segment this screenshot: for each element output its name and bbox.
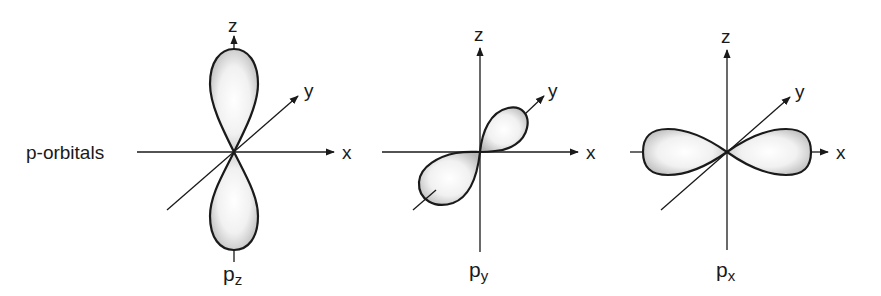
px-orbital-diagram: z y x px <box>630 26 846 284</box>
pz-orbital-diagram: z y x pz <box>137 15 352 288</box>
p-orbitals-label: p-orbitals <box>26 142 104 163</box>
py-x-label: x <box>586 142 596 163</box>
px-z-label: z <box>721 26 731 47</box>
py-upper-lobe <box>480 107 528 152</box>
pz-y-label: y <box>304 80 314 101</box>
py-y-axis-outer <box>525 96 544 114</box>
px-left-lobe <box>643 129 727 175</box>
px-y-label: y <box>795 81 805 102</box>
px-right-lobe <box>727 129 811 175</box>
pz-z-label: z <box>228 15 238 36</box>
pz-orbital-label: pz <box>223 262 242 288</box>
py-z-label: z <box>474 24 484 45</box>
pz-x-label: x <box>342 142 352 163</box>
p-orbitals-diagram: p-orbitals z y x pz z y x py z <box>0 0 881 296</box>
py-orbital-diagram: z y x py <box>382 24 596 284</box>
py-y-label: y <box>548 80 558 101</box>
py-orbital-label: py <box>469 258 489 284</box>
px-orbital-label: px <box>716 258 736 284</box>
px-x-label: x <box>836 142 846 163</box>
